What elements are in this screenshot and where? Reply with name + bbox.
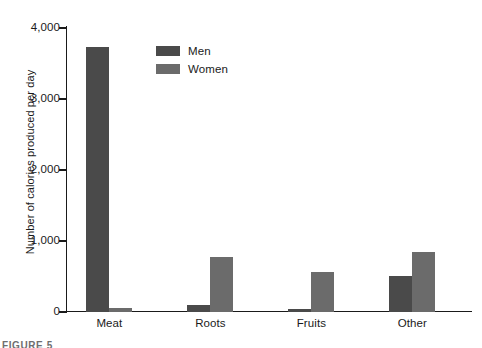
legend-swatch-icon: [156, 64, 180, 74]
legend-item: Women: [156, 62, 228, 76]
y-axis-tick-labels: 01,0002,0003,0004,000: [18, 0, 60, 348]
bar-women-meat: [109, 308, 132, 312]
legend-label: Men: [188, 45, 211, 57]
x-axis-tick-labels: MeatRootsFruitsOther: [67, 316, 471, 334]
plot-area: [67, 28, 471, 312]
x-axis-tick-label: Other: [362, 316, 462, 330]
bar-men-meat: [86, 47, 109, 312]
bar-men-fruits: [288, 309, 311, 312]
y-axis-tick-label: 1,000: [20, 235, 60, 247]
y-axis-tick-mark: [59, 311, 67, 312]
y-axis-tick-label: 2,000: [20, 164, 60, 176]
bar-men-roots: [187, 305, 210, 312]
y-axis-tick-mark: [59, 240, 67, 241]
y-axis-tick-mark: [59, 27, 67, 28]
legend-item: Men: [156, 44, 228, 58]
y-axis-tick-mark: [59, 169, 67, 170]
figure-caption: FIGURE 5: [2, 340, 88, 348]
bar-chart-figure: Number of calories produced per day 01,0…: [0, 0, 482, 348]
x-axis-tick-label: Meat: [59, 316, 159, 330]
x-axis-tick-label: Roots: [160, 316, 260, 330]
legend-swatch-icon: [156, 46, 180, 56]
bar-women-fruits: [311, 272, 334, 312]
x-axis-tick-label: Fruits: [261, 316, 361, 330]
y-axis-tick-mark: [59, 98, 67, 99]
y-axis-tick-label: 0: [20, 306, 60, 318]
bar-men-other: [389, 276, 412, 312]
legend-label: Women: [188, 63, 228, 75]
chart-legend: MenWomen: [156, 44, 228, 80]
y-axis-tick-label: 3,000: [20, 93, 60, 105]
y-axis-tick-label: 4,000: [20, 22, 60, 34]
bar-women-other: [412, 252, 435, 312]
bar-women-roots: [210, 257, 233, 312]
